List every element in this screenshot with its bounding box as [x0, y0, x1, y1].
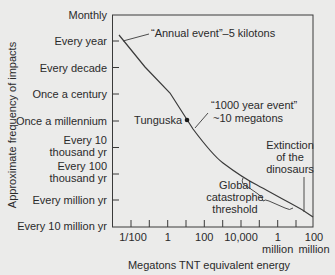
y-tick-labels: Monthly Every year Every decade Once a c… [16, 9, 108, 232]
y-tick-every-year: Every year [54, 35, 107, 47]
dino-label-l1: Extinction [266, 139, 314, 151]
annual-event-label: “Annual event”–5 kilotons [151, 27, 276, 39]
x-tick-1-million-l2: million [262, 243, 293, 255]
dino-label-l3: dinosaurs [266, 163, 314, 175]
frequency-curve [119, 35, 313, 217]
x-axis-ticks [131, 220, 296, 227]
global-threshold-label-l3: threshold [212, 203, 257, 215]
dino-label-l2: of the [276, 151, 304, 163]
y-axis-title: Approximate frequency of impacts [6, 41, 18, 208]
thousand-year-label-l2: ~10 megatons [213, 112, 284, 124]
x-tick-1: 1 [165, 231, 171, 243]
thousand-year-leader [195, 113, 208, 128]
x-tick-labels: 1/100 1 100 10,000 1 million 100 million [119, 231, 329, 255]
y-tick-every-decade: Every decade [40, 62, 107, 74]
x-tick-1-100: 1/100 [119, 231, 147, 243]
global-threshold-label-l2: catastrophe [206, 191, 263, 203]
annual-event-leader [123, 34, 149, 41]
x-tick-10000: 10,000 [224, 231, 258, 243]
y-tick-every-10-thousand-yr-l2: thousand yr [50, 146, 108, 158]
y-axis-ticks [113, 41, 120, 200]
thousand-year-label-l1: “1000 year event” [211, 99, 298, 111]
x-tick-100-million-l1: 100 [305, 231, 323, 243]
y-tick-every-million-yr: Every million yr [32, 194, 107, 206]
tunguska-marker [185, 118, 190, 123]
y-tick-every-10-million-yr: Every 10 million yr [17, 220, 107, 232]
y-tick-every-100-thousand-yr-l2: thousand yr [50, 172, 108, 184]
x-tick-1-million-l1: 1 [275, 231, 281, 243]
x-tick-100-million-l2: million [298, 243, 329, 255]
global-threshold-label-l1: Global [219, 179, 251, 191]
y-tick-every-10-thousand-yr-l1: Every 10 [64, 134, 107, 146]
y-tick-every-100-thousand-yr-l1: Every 100 [57, 160, 107, 172]
y-tick-monthly: Monthly [68, 9, 107, 21]
y-tick-once-a-millennium: Once a millennium [16, 115, 107, 127]
impact-frequency-chart: Monthly Every year Every decade Once a c… [0, 0, 335, 275]
x-axis-title: Megatons TNT equivalent energy [128, 259, 291, 271]
y-tick-once-a-century: Once a century [32, 88, 107, 100]
tunguska-label: Tunguska [134, 114, 183, 126]
x-tick-100: 100 [195, 231, 213, 243]
